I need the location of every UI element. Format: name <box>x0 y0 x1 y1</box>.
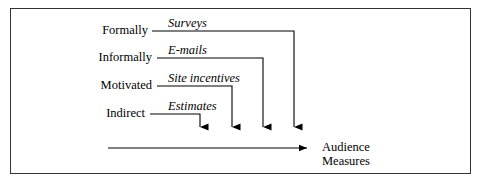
outcome-line-1: Audience <box>322 141 370 155</box>
source-label-formally: Formally <box>102 24 148 37</box>
connector-indirect <box>150 114 200 127</box>
method-label-surveys: Surveys <box>168 17 207 30</box>
connector-informally <box>157 58 263 127</box>
source-label-informally: Informally <box>99 51 152 64</box>
outcome-label-audience-measures: Audience Measures <box>322 141 370 168</box>
figure-root: Formally Surveys Informally E-mails Moti… <box>0 0 482 190</box>
method-label-estimates: Estimates <box>168 100 217 113</box>
diagram-connectors <box>0 0 482 190</box>
method-label-site-incentives: Site incentives <box>168 72 240 85</box>
source-label-motivated: Motivated <box>101 79 152 92</box>
method-label-emails: E-mails <box>168 44 207 57</box>
source-label-indirect: Indirect <box>106 107 145 120</box>
outcome-line-2: Measures <box>322 155 370 169</box>
